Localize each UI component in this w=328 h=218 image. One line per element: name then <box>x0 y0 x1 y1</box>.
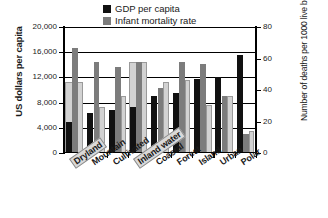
y-axis-left-tick-label: 8,000 <box>37 98 57 107</box>
y-axis-left-tick-label: 12,000 <box>33 72 57 81</box>
y-axis-right-tick <box>256 122 261 123</box>
bar-group <box>107 27 128 153</box>
legend-swatch-gdp-icon <box>103 5 111 13</box>
bar-group <box>128 27 149 153</box>
legend-item-infant-mortality: Infant mortality rate <box>103 15 196 26</box>
bar-gdp <box>237 55 243 153</box>
y-axis-left-title: US dollars per capita <box>13 12 24 132</box>
bar-chart: US dollars per capita Number of deaths p… <box>0 0 328 218</box>
legend-swatch-infant-mortality-icon <box>103 17 111 25</box>
y-axis-right-tick <box>256 59 261 60</box>
bar-gdp <box>215 77 221 153</box>
bar-infant-mortality <box>222 96 228 153</box>
bar-group <box>192 27 213 153</box>
y-axis-left-tick <box>59 77 64 78</box>
y-axis-left-line <box>63 26 65 154</box>
bar-gdp <box>66 122 72 153</box>
y-axis-left-tick-label: 16,000 <box>33 47 57 56</box>
bar-precipitation <box>227 96 233 153</box>
y-axis-left-tick-label: 20,000 <box>33 22 57 31</box>
y-axis-left-tick-label: 0 <box>53 148 57 157</box>
y-axis-left-tick <box>59 27 64 28</box>
y-axis-left-tick <box>59 52 64 53</box>
legend-label-infant-mortality: Infant mortality rate <box>115 15 196 26</box>
y-axis-left-tick <box>59 153 64 154</box>
y-axis-right-tick-label: 60 <box>263 54 272 63</box>
y-axis-right-tick <box>256 90 261 91</box>
bar-group <box>85 27 106 153</box>
y-axis-right-tick <box>256 27 261 28</box>
y-axis-left-tick-label: 4,000 <box>37 123 57 132</box>
bar-group <box>235 27 256 153</box>
bar-infant-mortality <box>72 48 78 153</box>
y-axis-right-tick-label: 80 <box>263 22 272 31</box>
bar-gdp <box>194 79 200 153</box>
y-axis-left-tick <box>59 128 64 129</box>
y-axis-right-tick-label: 40 <box>263 85 272 94</box>
bar-precipitation <box>206 105 212 153</box>
plot-area: 04,0008,00012,00016,00020,000 020406080 <box>64 27 256 153</box>
y-axis-right-title: Number of deaths per 1000 live births <box>299 0 309 128</box>
y-axis-right-tick-label: 0 <box>263 148 267 157</box>
bar-group <box>64 27 85 153</box>
y-axis-left-tick <box>59 103 64 104</box>
legend-label-gdp: GDP per capita <box>115 3 180 14</box>
y-axis-right-tick-label: 20 <box>263 117 272 126</box>
bar-group <box>213 27 234 153</box>
bar-infant-mortality <box>243 134 249 153</box>
legend-item-gdp: GDP per capita <box>103 3 196 14</box>
bar-precipitation <box>185 80 191 153</box>
bar-infant-mortality <box>200 64 206 153</box>
